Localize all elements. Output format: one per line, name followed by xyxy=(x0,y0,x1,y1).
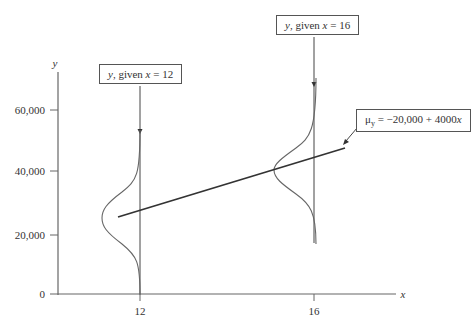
y-tick-label: 20,000 xyxy=(15,229,46,241)
label-text: , given xyxy=(290,19,323,31)
equation-variable: x xyxy=(457,113,462,125)
y-axis-label: y xyxy=(52,57,58,69)
equation-box: μy = −20,000 + 4000x xyxy=(356,109,471,132)
equation-text: = −20,000 + 4000 xyxy=(375,113,457,125)
x-tick-label: 16 xyxy=(309,305,321,317)
arrowhead-icon xyxy=(343,139,349,145)
label-box-x16: y, given x = 16 xyxy=(276,15,359,35)
chart-canvas: 60,000 40,000 20,000 0 12 16 y x xyxy=(0,0,475,327)
x-axis-label: x xyxy=(400,288,406,300)
label-text: = 16 xyxy=(327,19,350,31)
label-box-x12: y, given x = 12 xyxy=(99,64,182,84)
y-tick-label: 60,000 xyxy=(15,104,46,116)
regression-line xyxy=(118,148,345,217)
x-tick-label: 12 xyxy=(135,305,146,317)
normal-curve-16 xyxy=(274,78,316,244)
y-tick-label: 0 xyxy=(40,288,46,300)
label-text: = 12 xyxy=(150,68,173,80)
label-text: , given xyxy=(113,68,146,80)
y-tick-label: 40,000 xyxy=(15,165,46,177)
